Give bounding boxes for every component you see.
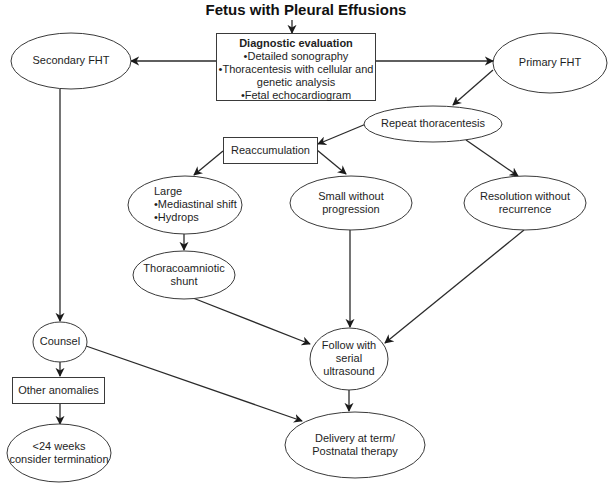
diagnostic-item: •Detailed sonography [216, 50, 376, 63]
resolution-text: Resolution without recurrence [464, 190, 586, 216]
shunt-line: shunt [133, 275, 235, 288]
termination-text: <24 weeks consider termination [7, 440, 111, 466]
delivery-text: Delivery at term/ Postnatal therapy [285, 432, 425, 458]
secondary-fht-label: Secondary FHT [11, 54, 131, 67]
large-heading: Large [154, 185, 254, 198]
edge-reaccumulation-to-small [317, 150, 346, 174]
diagram-title: Fetus with Pleural Effusions [0, 1, 612, 18]
resolution-line: Resolution without [464, 190, 586, 203]
edge-resolution-to-follow [385, 230, 524, 343]
other-anomalies-label: Other anomalies [12, 384, 105, 397]
follow-text: Follow with serial ultrasound [310, 339, 388, 378]
termination-line: <24 weeks [7, 440, 111, 453]
shunt-text: Thoracoamniotic shunt [133, 262, 235, 288]
diagnostic-item: •Fetal echocardiogram [216, 89, 376, 102]
large-text: Large •Mediastinal shift •Hydrops [154, 185, 254, 224]
reaccumulation-label: Reaccumulation [223, 144, 318, 157]
delivery-line: Postnatal therapy [285, 445, 425, 458]
follow-line: serial [310, 352, 388, 365]
edge-primary-to-repeat [453, 70, 493, 105]
delivery-line: Delivery at term/ [285, 432, 425, 445]
small-line: progression [290, 203, 412, 216]
small-text: Small without progression [290, 190, 412, 216]
repeat-thoracentesis-label: Repeat thoracentesis [364, 117, 502, 130]
resolution-line: recurrence [464, 203, 586, 216]
large-item: •Mediastinal shift [154, 198, 254, 211]
edge-repeat-to-reaccumulation [318, 124, 366, 144]
primary-fht-label: Primary FHT [493, 56, 607, 69]
diagnostic-item: •Thoracentesis with cellular and [216, 63, 376, 76]
follow-line: Follow with [310, 339, 388, 352]
edge-reaccumulation-to-large [194, 151, 223, 175]
diagnostic-evaluation-text: Diagnostic evaluation •Detailed sonograp… [216, 37, 376, 102]
shunt-line: Thoracoamniotic [133, 262, 235, 275]
diagnostic-heading: Diagnostic evaluation [216, 37, 376, 50]
counsel-label: Counsel [33, 335, 87, 348]
large-item: •Hydrops [154, 211, 254, 224]
edge-counsel-to-delivery [86, 346, 302, 421]
follow-line: ultrasound [310, 365, 388, 378]
diagnostic-item: genetic analysis [216, 76, 376, 89]
edge-repeat-to-resolution [466, 140, 518, 176]
termination-line: consider termination [7, 453, 111, 466]
edge-shunt-to-follow [193, 298, 310, 344]
small-line: Small without [290, 190, 412, 203]
